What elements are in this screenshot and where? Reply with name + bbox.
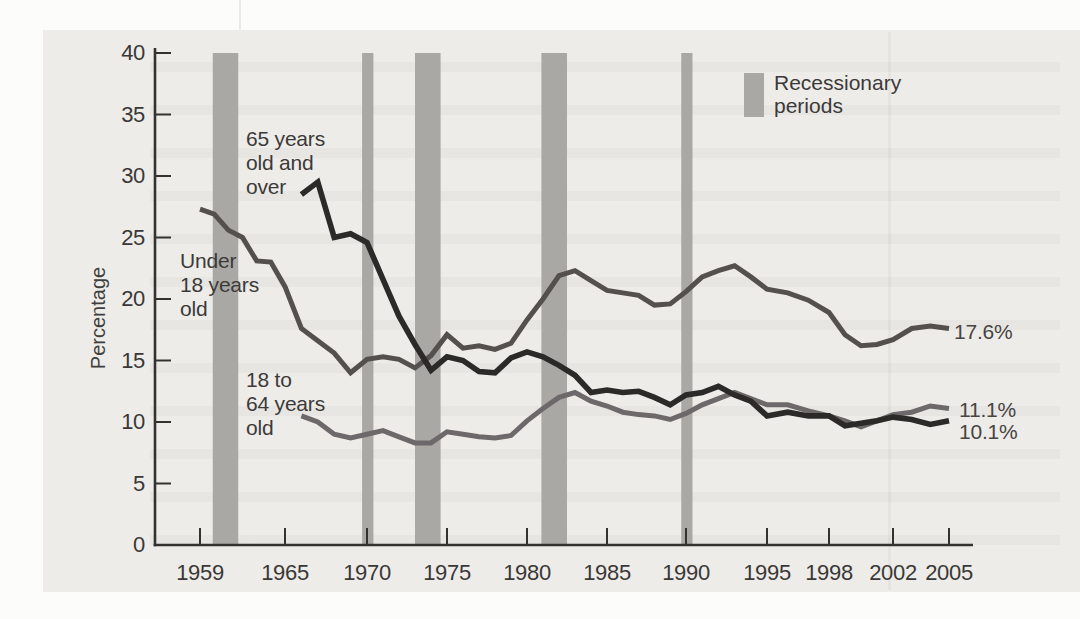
x-tick-label: 1990	[651, 560, 721, 586]
x-tick-label: 1965	[250, 560, 320, 586]
x-tick-label: 2005	[914, 560, 984, 586]
series-line-18-to-64-years-old	[301, 393, 949, 443]
recession-band	[415, 53, 441, 544]
x-tick-label: 1995	[732, 560, 802, 586]
y-tick-label: 5	[97, 471, 145, 497]
recession-band	[362, 53, 373, 544]
y-tick-label: 30	[97, 163, 145, 189]
scanned-book-page: Percentage 65 years old and over Under 1…	[0, 0, 1080, 619]
x-tick-label: 1998	[794, 560, 864, 586]
series-label-under-18: Under 18 years old	[180, 249, 259, 321]
y-tick-label: 25	[97, 225, 145, 251]
series-label-65-and-over: 65 years old and over	[246, 127, 325, 199]
y-axis-title: Percentage	[87, 238, 111, 398]
legend-label: Recessionary periods	[774, 71, 974, 117]
x-tick-label: 1970	[332, 560, 402, 586]
y-tick-label: 15	[97, 348, 145, 374]
y-tick-label: 20	[97, 286, 145, 312]
series-label-18-to-64: 18 to 64 years old	[246, 368, 325, 440]
x-tick-label: 1975	[412, 560, 482, 586]
x-tick-label: 1980	[492, 560, 562, 586]
y-tick-label: 35	[97, 102, 145, 128]
x-tick-label: 1985	[572, 560, 642, 586]
end-value-65-and-over: 10.1%	[959, 420, 1018, 444]
series-line-65-years-old-and-over	[301, 182, 949, 426]
series-line-under-18-years-old	[200, 209, 949, 373]
y-tick-label: 0	[97, 532, 145, 558]
x-tick-label: 1959	[165, 560, 235, 586]
end-value-18-to-64: 11.1%	[959, 398, 1016, 422]
y-tick-label: 10	[97, 409, 145, 435]
legend-swatch-recession	[744, 73, 764, 117]
end-value-under-18: 17.6%	[954, 320, 1013, 344]
y-tick-label: 40	[97, 40, 145, 66]
recession-band	[681, 53, 692, 544]
